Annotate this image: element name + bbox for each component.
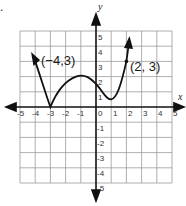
y-tick: -5	[97, 184, 104, 193]
point-label-right: (2, 3)	[130, 59, 160, 74]
x-axis-label: x	[178, 91, 182, 102]
coordinate-plane	[0, 0, 186, 206]
x-tick: -2	[62, 109, 69, 118]
axes	[6, 14, 184, 201]
curve-right-arrow-icon	[124, 36, 133, 49]
function-curve	[31, 36, 133, 107]
x-tick: 3	[143, 109, 147, 118]
x-tick: -4	[32, 109, 39, 118]
y-tick: -4	[97, 169, 104, 178]
x-tick: 4	[158, 109, 162, 118]
y-tick: -2	[97, 139, 104, 148]
y-tick: -3	[97, 154, 104, 163]
x-tick: 5	[173, 109, 177, 118]
y-tick: -1	[97, 124, 104, 133]
x-tick: 2	[128, 109, 132, 118]
x-tick: 0	[98, 109, 102, 118]
x-tick: -5	[17, 109, 24, 118]
x-axis-left-arrow-icon	[6, 103, 16, 111]
y-tick: 5	[98, 33, 102, 42]
x-tick: 1	[113, 109, 117, 118]
point-label-left: (−4,3)	[41, 53, 75, 68]
y-axis-up-arrow-icon	[92, 14, 100, 25]
point-2-3	[125, 60, 129, 64]
x-tick: -1	[77, 109, 84, 118]
y-tick: 1	[98, 93, 102, 102]
y-tick: 3	[98, 63, 102, 72]
y-tick: 2	[98, 78, 102, 87]
x-tick: -3	[47, 109, 54, 118]
y-axis-label: y	[98, 1, 102, 12]
y-tick: 4	[98, 48, 102, 57]
